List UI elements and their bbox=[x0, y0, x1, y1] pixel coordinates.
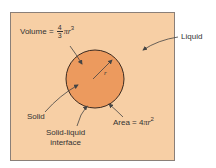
area-formula-label: Area = 4πr2 bbox=[113, 119, 154, 127]
volume-formula-label: Volume = 43πr3 bbox=[20, 24, 74, 39]
solid-label: Solid bbox=[27, 113, 45, 121]
solid-sphere bbox=[66, 50, 124, 108]
liquid-label: Liquid bbox=[181, 33, 202, 41]
volume-fraction: 43 bbox=[57, 24, 63, 39]
interface-label: Solid-liquid interface bbox=[46, 128, 85, 148]
radius-label: r bbox=[104, 69, 107, 77]
